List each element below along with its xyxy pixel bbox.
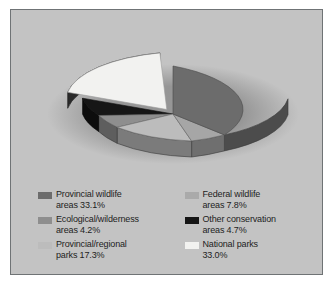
legend-label-line2: areas 7.8%: [203, 200, 261, 211]
legend-swatch-icon: [185, 192, 199, 199]
legend-label-line2: areas 4.2%: [56, 225, 139, 236]
legend-label-line2: areas 33.1%: [56, 200, 122, 211]
legend-label: Provincial/regionalparks 17.3%: [56, 239, 127, 261]
legend-label-line1: Ecological/wilderness: [56, 214, 139, 224]
legend-label: National parks33.0%: [203, 239, 258, 261]
legend-label: Provincial wildlifeareas 33.1%: [56, 189, 122, 211]
chart-legend: Provincial wildlifeareas 33.1% Ecologica…: [11, 178, 322, 274]
legend-label: Other conservationareas 4.7%: [203, 214, 276, 236]
pie-chart-area: [11, 10, 322, 178]
legend-item-other-conservation[interactable]: Other conservationareas 4.7%: [185, 214, 323, 236]
legend-label-line2: parks 17.3%: [56, 250, 127, 261]
legend-label-line1: National parks: [203, 239, 258, 249]
legend-swatch-icon: [38, 242, 52, 249]
legend-swatch-icon: [38, 217, 52, 224]
legend-label: Federal wildlifeareas 7.8%: [203, 189, 261, 211]
legend-label-line1: Federal wildlife: [203, 189, 261, 199]
legend-swatch-icon: [185, 217, 199, 224]
legend-item-provincial-regional-parks[interactable]: Provincial/regionalparks 17.3%: [38, 239, 167, 261]
legend-swatch-icon: [38, 192, 52, 199]
legend-label: Ecological/wildernessareas 4.2%: [56, 214, 139, 236]
legend-item-ecological-wilderness[interactable]: Ecological/wildernessareas 4.2%: [38, 214, 167, 236]
legend-label-line2: 33.0%: [203, 250, 258, 261]
legend-item-provincial-wildlife[interactable]: Provincial wildlifeareas 33.1%: [38, 189, 167, 211]
legend-item-national-parks[interactable]: National parks33.0%: [185, 239, 323, 261]
legend-label-line1: Provincial wildlife: [56, 189, 122, 199]
legend-label-line1: Provincial/regional: [56, 239, 127, 249]
chart-figure: Provincial wildlifeareas 33.1% Ecologica…: [10, 9, 323, 275]
legend-column-right: Federal wildlifeareas 7.8% Other conserv…: [167, 178, 323, 274]
legend-label-line2: areas 4.7%: [203, 225, 276, 236]
legend-item-federal-wildlife[interactable]: Federal wildlifeareas 7.8%: [185, 189, 323, 211]
legend-swatch-icon: [185, 242, 199, 249]
legend-label-line1: Other conservation: [203, 214, 276, 224]
legend-column-left: Provincial wildlifeareas 33.1% Ecologica…: [11, 178, 167, 274]
pie-chart-svg: [11, 10, 322, 178]
